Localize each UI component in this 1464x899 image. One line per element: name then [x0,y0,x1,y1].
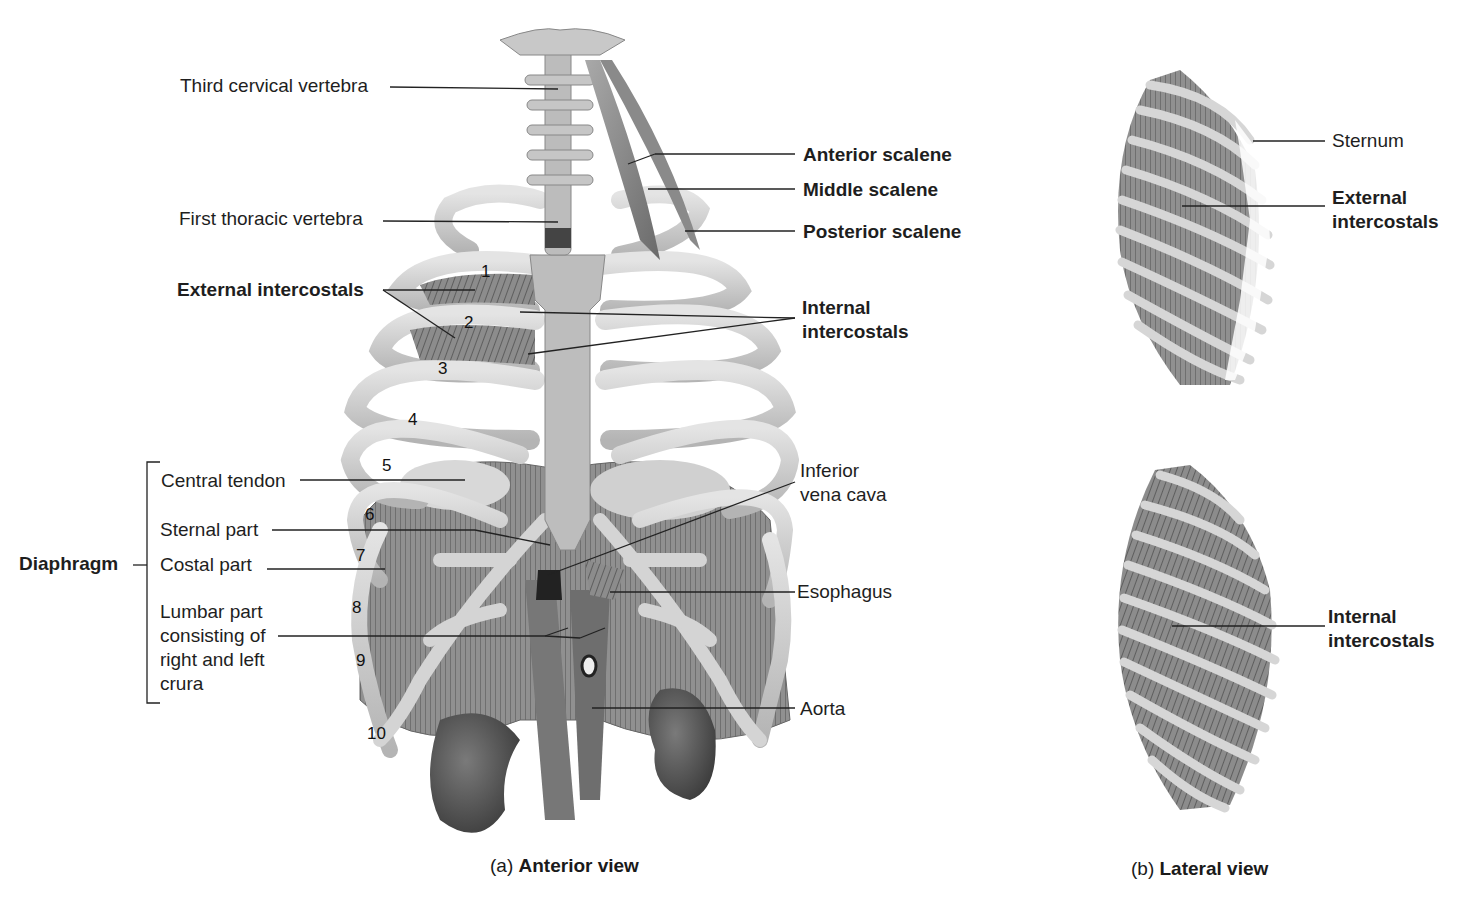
label-central-tendon: Central tendon [161,469,286,493]
label-anterior-scalene: Anterior scalene [803,143,952,167]
label-external-intercostals-lateral: External intercostals [1332,186,1439,234]
label-sternum: Sternum [1332,129,1404,153]
anterior-view-art [350,29,790,833]
rib-number-8: 8 [352,598,361,618]
rib-number-2: 2 [464,313,473,333]
caption-lateral-view: (b) Lateral view [1131,858,1268,880]
label-esophagus: Esophagus [797,580,892,604]
label-lumbar-part: Lumbar part consisting of right and left… [160,600,266,696]
rib-number-5: 5 [382,456,391,476]
label-diaphragm: Diaphragm [19,552,118,576]
rib-number-9: 9 [356,651,365,671]
label-inferior-vena-cava: Inferior vena cava [800,459,887,507]
rib-number-7: 7 [356,546,365,566]
caption-anterior-prefix: (a) [490,855,513,876]
lateral-view-external-art [1118,70,1270,385]
label-first-thoracic-vertebra: First thoracic vertebra [179,207,363,231]
caption-lateral-title: Lateral view [1160,858,1269,879]
label-aorta: Aorta [800,697,845,721]
rib-number-4: 4 [408,410,417,430]
label-costal-part: Costal part [160,553,252,577]
lateral-view-internal-art [1118,465,1275,810]
label-posterior-scalene: Posterior scalene [803,220,961,244]
caption-anterior-view: (a) Anterior view [490,855,639,877]
anatomy-illustration [0,0,1464,899]
label-middle-scalene: Middle scalene [803,178,938,202]
rib-number-6: 6 [365,505,374,525]
label-sternal-part: Sternal part [160,518,258,542]
label-external-intercostals-anterior: External intercostals [177,278,364,302]
rib-number-10: 10 [367,724,386,744]
caption-lateral-prefix: (b) [1131,858,1154,879]
label-internal-intercostals-anterior: Internal intercostals [802,296,909,344]
rib-number-3: 3 [438,359,447,379]
caption-anterior-title: Anterior view [519,855,639,876]
label-third-cervical-vertebra: Third cervical vertebra [180,74,368,98]
rib-number-1: 1 [481,262,490,282]
label-internal-intercostals-lateral: Internal intercostals [1328,605,1435,653]
